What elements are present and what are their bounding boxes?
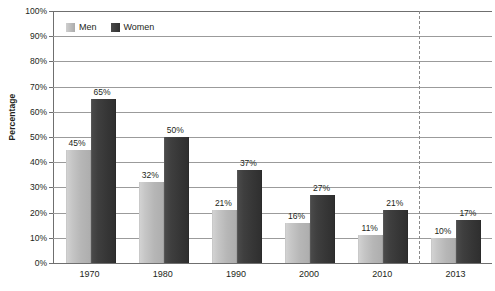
y-tick-label: 90%	[1, 32, 47, 41]
y-tick-mark	[49, 11, 53, 12]
legend-item-women[interactable]: Women	[111, 23, 155, 32]
bar-men-2000[interactable]	[285, 223, 310, 263]
bar-women-1980[interactable]	[164, 137, 189, 263]
bar-women-2010[interactable]	[383, 210, 408, 263]
bar-chart: Percentage 45%65%32%50%21%37%16%27%11%21…	[0, 0, 495, 291]
bar-value-label: 50%	[155, 126, 195, 135]
bar-women-1990[interactable]	[237, 170, 262, 263]
bar-men-1990[interactable]	[212, 210, 237, 263]
bar-men-1980[interactable]	[139, 182, 164, 263]
y-tick-mark	[49, 213, 53, 214]
category-divider-icon	[419, 11, 420, 264]
x-tick-label-1980: 1980	[128, 270, 198, 279]
bar-women-1970[interactable]	[91, 99, 116, 263]
bar-men-2013[interactable]	[431, 238, 456, 263]
x-tick-label-1990: 1990	[201, 270, 271, 279]
bar-value-label: 27%	[302, 184, 342, 193]
bar-value-label: 65%	[82, 88, 122, 97]
bar-women-2000[interactable]	[310, 195, 335, 263]
y-tick-label: 10%	[1, 234, 47, 243]
y-tick-mark	[49, 87, 53, 88]
y-tick-mark	[49, 187, 53, 188]
y-tick-mark	[49, 162, 53, 163]
y-tick-mark	[49, 61, 53, 62]
bar-women-2013[interactable]	[456, 220, 481, 263]
y-tick-label: 30%	[1, 183, 47, 192]
y-tick-label: 20%	[1, 209, 47, 218]
x-tick-label-2013: 2013	[420, 270, 490, 279]
x-tick-label-1970: 1970	[55, 270, 125, 279]
y-tick-mark	[49, 263, 53, 264]
y-tick-label: 70%	[1, 83, 47, 92]
legend-label-women: Women	[124, 23, 155, 32]
legend: Men Women	[66, 22, 158, 33]
y-tick-label: 100%	[1, 7, 47, 16]
y-tick-mark	[49, 137, 53, 138]
legend-item-men[interactable]: Men	[66, 23, 97, 32]
bar-value-label: 17%	[448, 209, 488, 218]
y-tick-mark	[49, 238, 53, 239]
y-tick-label: 80%	[1, 57, 47, 66]
y-tick-label: 0%	[1, 259, 47, 268]
bar-men-1970[interactable]	[66, 150, 91, 263]
y-tick-mark	[49, 112, 53, 113]
legend-label-men: Men	[79, 23, 97, 32]
plot-area: 45%65%32%50%21%37%16%27%11%21%10%17%	[53, 11, 492, 264]
bar-men-2010[interactable]	[358, 235, 383, 263]
y-tick-label: 60%	[1, 108, 47, 117]
bar-layer: 45%65%32%50%21%37%16%27%11%21%10%17%	[53, 11, 492, 264]
women-swatch-icon	[111, 23, 120, 32]
bar-value-label: 37%	[228, 159, 268, 168]
bar-value-label: 21%	[375, 199, 415, 208]
y-tick-mark	[49, 36, 53, 37]
y-tick-label: 50%	[1, 133, 47, 142]
men-swatch-icon	[66, 23, 75, 32]
x-tick-label-2000: 2000	[274, 270, 344, 279]
y-tick-label: 40%	[1, 158, 47, 167]
x-tick-label-2010: 2010	[347, 270, 417, 279]
